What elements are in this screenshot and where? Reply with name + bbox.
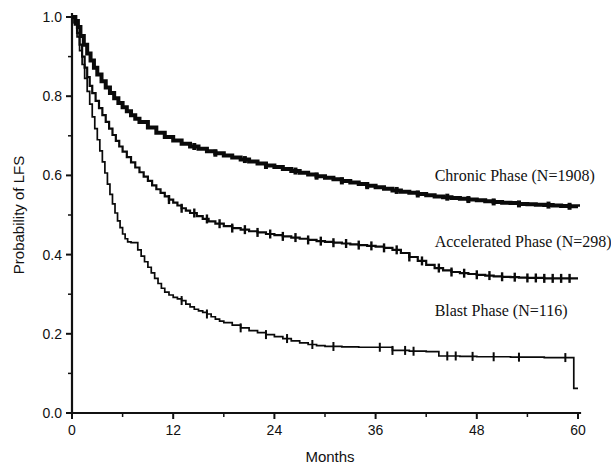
kaplan-meier-figure: 0.00.20.40.60.81.001224364860 Chronic Ph… xyxy=(0,0,611,476)
y-axis-title: Probability of LFS xyxy=(10,156,27,274)
survival-curves xyxy=(72,17,578,388)
x-tick-label: 0 xyxy=(68,422,76,438)
series-label-0: Chronic Phase (N=1908) xyxy=(435,167,595,185)
y-tick-label: 0.6 xyxy=(43,167,63,183)
axis-ticks xyxy=(66,17,578,419)
axes xyxy=(72,14,580,413)
x-tick-label: 36 xyxy=(368,422,384,438)
series-label-1: Accelerated Phase (N=298) xyxy=(435,233,611,251)
y-tick-label: 0.8 xyxy=(43,88,63,104)
y-tick-label: 0.4 xyxy=(43,247,63,263)
y-tick-label: 0.2 xyxy=(43,326,63,342)
axis-tick-labels: 0.00.20.40.60.81.001224364860 xyxy=(43,9,586,438)
series-label-2: Blast Phase (N=116) xyxy=(435,302,568,320)
series-labels: Chronic Phase (N=1908)Accelerated Phase … xyxy=(435,167,611,320)
x-axis-title: Months xyxy=(305,448,354,465)
x-tick-label: 12 xyxy=(165,422,181,438)
x-tick-label: 60 xyxy=(570,422,586,438)
survival-plot: 0.00.20.40.60.81.001224364860 Chronic Ph… xyxy=(0,0,611,476)
x-tick-label: 24 xyxy=(267,422,283,438)
y-tick-label: 1.0 xyxy=(43,9,63,25)
y-tick-label: 0.0 xyxy=(43,405,63,421)
x-tick-label: 48 xyxy=(469,422,485,438)
